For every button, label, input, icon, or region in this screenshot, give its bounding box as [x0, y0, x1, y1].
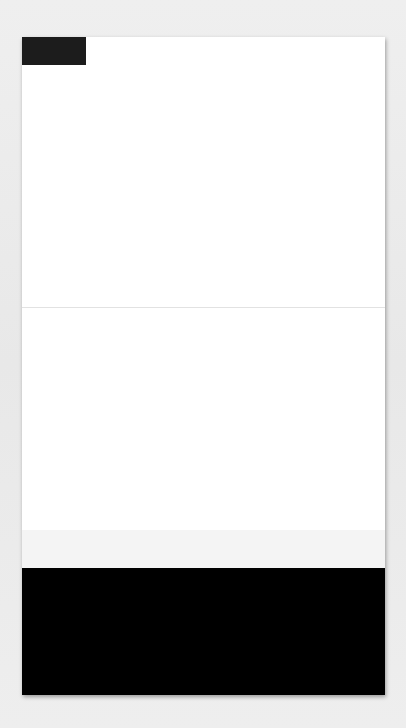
stage [0, 0, 406, 728]
panel-top [22, 37, 385, 307]
step-card [22, 37, 385, 695]
step-badge [22, 37, 86, 65]
panel-bottom [22, 530, 385, 695]
panel-middle [22, 307, 385, 531]
bottom-panel-light-band [22, 530, 385, 568]
